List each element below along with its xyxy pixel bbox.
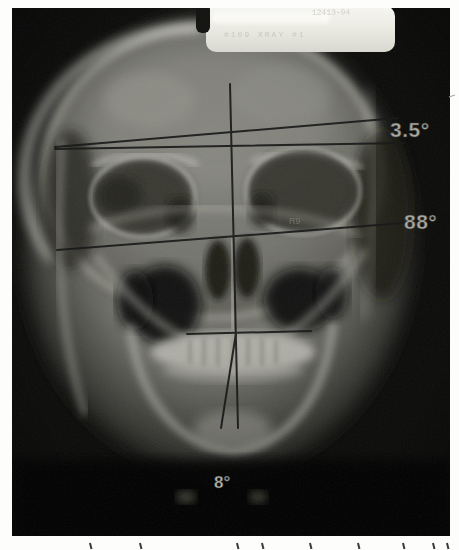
scanned-figure-page: R9 3.5° 88° 8° 12413-94 #109 XRAY #1 [0,0,459,550]
tag-label-text: #109 XRAY #1 [224,30,306,39]
occlusal-angle-label: 88° [404,210,437,233]
radiograph-figure: R9 3.5° 88° 8° 12413-94 #109 XRAY #1 [0,0,459,550]
tag-serial-text: 12413-94 [312,7,351,17]
xray-film: R9 3.5° 88° 8° 12413-94 #109 XRAY #1 [12,4,450,540]
upper-angle-label: 3.5° [390,118,430,141]
film-marker-text: R9 [289,216,301,226]
caption-text-fragment [90,543,449,549]
chin-angle-label: 8° [214,473,230,492]
tag-clip-notch [196,4,210,33]
film-id-tag: 12413-94 #109 XRAY #1 [196,4,395,52]
